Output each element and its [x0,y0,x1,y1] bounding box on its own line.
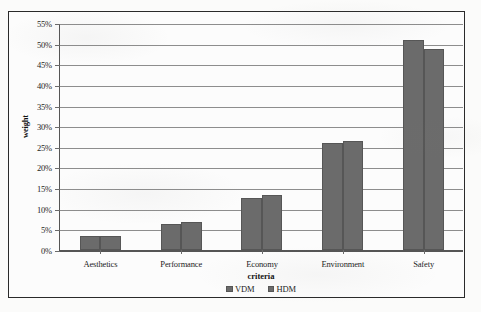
legend-label: VDM [235,284,254,294]
y-axis-tick-label: 5% [41,225,52,235]
legend-item-hdm: HDM [268,284,296,294]
legend-swatch-icon [226,286,233,293]
x-axis-tick [262,250,263,254]
bar-vdm-safety [403,40,424,250]
bar-group: Aesthetics [60,24,141,250]
y-axis-tick-label: 0% [41,246,52,256]
legend-item-vdm: VDM [226,284,254,294]
y-axis-tick-label: 35% [37,102,52,112]
y-axis-tick-label: 45% [37,60,52,70]
bar-hdm-aesthetics [100,236,121,250]
y-axis-tick-label: 20% [37,163,52,173]
bar-group: Safety [383,24,464,250]
y-axis-tick-label: 55% [37,19,52,29]
legend-label: HDM [277,284,296,294]
y-axis-tick-label: 40% [37,81,52,91]
y-axis-tick [55,251,60,252]
x-axis-tick [343,250,344,254]
x-axis-tick [100,250,101,254]
y-axis-title: weight [20,115,30,138]
bar-group: Performance [141,24,222,250]
bar-hdm-performance [181,222,202,250]
bar-hdm-environment [343,141,364,250]
x-axis-tick [181,250,182,254]
bar-vdm-economy [241,198,262,250]
bar-vdm-aesthetics [80,236,101,250]
x-axis-title: criteria [59,271,463,281]
y-axis-tick-label: 30% [37,122,52,132]
bar-vdm-environment [322,143,343,250]
chart-legend: VDMHDM [59,284,463,294]
bar-group: Economy [222,24,303,250]
x-axis-tick [424,250,425,254]
y-axis-tick-label: 10% [37,205,52,215]
plot-area: 0%5%10%15%20%25%30%35%40%45%50%55% Aesth… [59,24,463,251]
y-axis-tick-label: 15% [37,184,52,194]
x-axis-category-label: Safety [364,259,481,269]
bar-hdm-safety [424,49,445,250]
bar-group: Environment [302,24,383,250]
legend-swatch-icon [268,286,275,293]
bar-hdm-economy [262,195,283,250]
bar-vdm-performance [161,224,182,250]
y-axis-tick-label: 25% [37,143,52,153]
scanned-figure: weight 0%5%10%15%20%25%30%35%40%45%50%55… [0,0,481,312]
y-axis-tick-label: 50% [37,40,52,50]
